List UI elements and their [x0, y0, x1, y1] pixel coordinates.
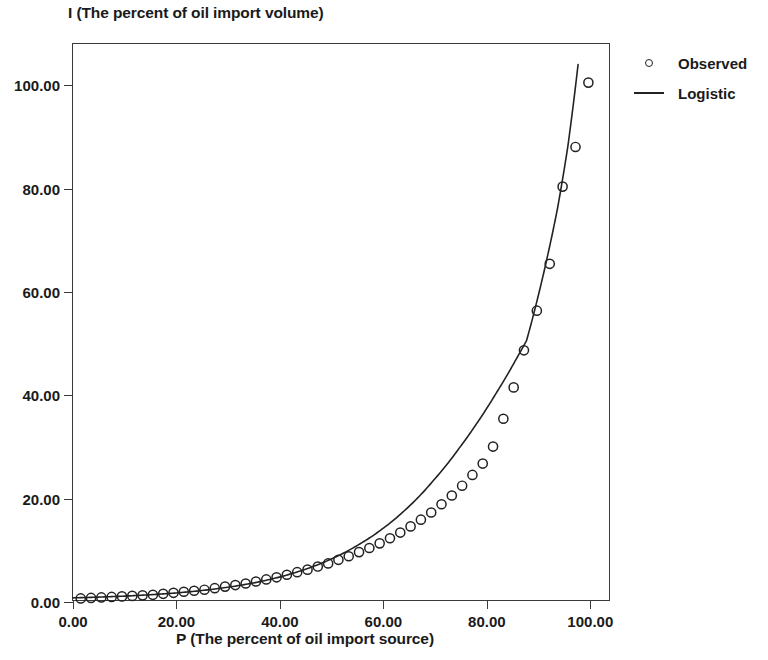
data-point	[406, 522, 415, 531]
x-tick	[487, 600, 488, 609]
y-tick-label: 80.00	[22, 180, 60, 197]
y-tick-label: 60.00	[22, 284, 60, 301]
x-tick	[280, 600, 281, 609]
logistic-curve	[73, 65, 578, 598]
x-tick-label: 0.00	[58, 613, 87, 630]
data-point	[437, 500, 446, 509]
legend-item-observed: Observed	[632, 48, 762, 78]
y-tick	[64, 499, 73, 500]
y-tick	[64, 292, 73, 293]
data-point	[478, 459, 487, 468]
x-tick	[73, 600, 74, 609]
legend-label-logistic: Logistic	[678, 85, 736, 102]
y-tick	[64, 85, 73, 86]
x-tick	[590, 600, 591, 609]
x-tick-label: 60.00	[365, 613, 403, 630]
data-point	[488, 442, 497, 451]
chart-figure: I (The percent of oil import volume) 0.0…	[0, 0, 768, 660]
data-point	[532, 306, 541, 315]
x-tick-label: 80.00	[468, 613, 506, 630]
y-tick-label: 0.00	[31, 594, 60, 611]
data-point	[509, 383, 518, 392]
x-tick	[176, 600, 177, 609]
data-point	[365, 543, 374, 552]
x-tick-label: 40.00	[261, 613, 299, 630]
data-point	[458, 481, 467, 490]
y-tick	[64, 395, 73, 396]
data-point	[375, 539, 384, 548]
y-tick-label: 40.00	[22, 387, 60, 404]
data-point	[499, 414, 508, 423]
data-point	[447, 491, 456, 500]
observed-points	[76, 78, 593, 603]
data-point	[385, 534, 394, 543]
data-point	[584, 78, 593, 87]
data-point	[468, 470, 477, 479]
data-point	[427, 508, 436, 517]
data-point	[334, 555, 343, 564]
line-marker-icon	[632, 92, 666, 94]
y-tick-label: 20.00	[22, 490, 60, 507]
x-tick-label: 20.00	[158, 613, 196, 630]
y-axis-title: I (The percent of oil import volume)	[68, 4, 324, 22]
chart-legend: Observed Logistic	[632, 48, 762, 108]
data-point	[571, 142, 580, 151]
legend-label-observed: Observed	[678, 55, 747, 72]
circle-marker-icon	[632, 59, 666, 67]
data-point	[354, 548, 363, 557]
x-tick	[383, 600, 384, 609]
plot-area: 0.0020.0040.0060.0080.00100.00 0.0020.00…	[72, 43, 610, 601]
data-point	[416, 515, 425, 524]
y-tick	[64, 602, 73, 603]
y-tick	[64, 189, 73, 190]
data-point	[396, 528, 405, 537]
chart-canvas	[73, 44, 609, 600]
x-tick-label: 100.00	[567, 613, 613, 630]
legend-item-logistic: Logistic	[632, 78, 762, 108]
y-tick-label: 100.00	[14, 77, 60, 94]
x-axis-title: P (The percent of oil import source)	[0, 630, 610, 648]
data-point	[344, 552, 353, 561]
